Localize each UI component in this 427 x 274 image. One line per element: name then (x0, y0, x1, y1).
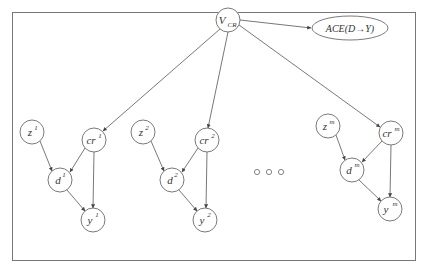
svg-text:2: 2 (211, 132, 215, 140)
svg-text:y: y (199, 214, 205, 226)
svg-text:m: m (394, 125, 399, 133)
svg-text:1: 1 (34, 124, 38, 132)
node-cr1: cr 1 (82, 128, 106, 152)
edge-crm-ym (390, 145, 391, 197)
edge-cr2-d2 (182, 148, 198, 172)
group-m: z m cr m d m y m (316, 114, 403, 221)
svg-text:z: z (27, 126, 33, 138)
group-2: z 2 cr 2 d 2 y 2 (131, 120, 219, 232)
node-y1: y 1 (81, 208, 105, 232)
node-y2: y 2 (193, 208, 217, 232)
node-vcr: V CR (216, 8, 240, 32)
causal-diagram: V CR ACE(D→Y) z 1 cr 1 d 1 y 1 (0, 0, 427, 274)
svg-text:cr: cr (199, 134, 209, 146)
group-1: z 1 cr 1 d 1 y 1 (20, 120, 106, 232)
node-z2: z 2 (131, 120, 155, 144)
edges (40, 20, 391, 211)
edge-cr1-y1 (93, 152, 94, 208)
svg-text:z: z (322, 120, 328, 132)
edge-z1-d1 (40, 141, 52, 171)
node-cr2: cr 2 (195, 128, 219, 152)
svg-text:m: m (354, 161, 359, 169)
edge-cr1-d1 (70, 148, 85, 172)
edge-dm-ym (359, 180, 381, 201)
edge-d1-y1 (67, 190, 85, 211)
svg-text:y: y (383, 203, 389, 215)
edge-crm-dm (362, 141, 382, 162)
edge-d2-y2 (179, 190, 197, 211)
svg-text:2: 2 (207, 211, 211, 219)
svg-text:z: z (138, 126, 144, 138)
svg-text:2: 2 (145, 124, 149, 132)
node-zm: z m (316, 114, 340, 138)
svg-text:1: 1 (62, 171, 66, 179)
edge-zm-dm (336, 135, 345, 160)
svg-text:2: 2 (174, 171, 178, 179)
edge-vcr-cr1 (103, 29, 220, 131)
ellipsis-dots (254, 169, 283, 174)
node-crm: cr m (379, 121, 403, 145)
svg-text:cr: cr (86, 134, 96, 146)
svg-text:m: m (329, 118, 334, 126)
svg-text:CR: CR (228, 21, 238, 29)
svg-text:ACE(D→Y): ACE(D→Y) (325, 23, 375, 35)
node-d1: d 1 (48, 168, 72, 192)
node-d2: d 2 (160, 168, 184, 192)
node-dm: d m (340, 158, 364, 182)
edge-vcr-crm (239, 25, 380, 127)
svg-text:d: d (346, 164, 352, 176)
edge-vcr-cr2 (208, 32, 228, 128)
svg-text:cr: cr (382, 127, 392, 139)
node-ace: ACE(D→Y) (312, 16, 388, 40)
svg-text:1: 1 (95, 211, 99, 219)
node-z1: z 1 (20, 120, 44, 144)
node-ym: y m (378, 197, 402, 221)
edge-vcr-ace (240, 20, 311, 28)
edge-cr2-y2 (206, 152, 207, 208)
edge-z2-d2 (151, 141, 164, 171)
svg-text:m: m (392, 200, 397, 208)
svg-text:1: 1 (98, 132, 102, 140)
svg-text:d: d (167, 174, 173, 186)
svg-text:y: y (87, 214, 93, 226)
svg-text:d: d (55, 174, 61, 186)
